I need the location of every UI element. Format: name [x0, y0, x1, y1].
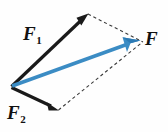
label-force-one: F1: [23, 24, 42, 46]
label-resultant-force: F: [145, 29, 158, 48]
vector-diagram-figure: F1 F2 F: [0, 0, 168, 132]
label-force-one-subscript: 1: [36, 34, 42, 46]
label-force-one-base: F: [23, 23, 36, 44]
label-force-two-base: F: [7, 102, 20, 123]
vector-resultant-shaft: [12, 44, 128, 86]
label-force-two: F2: [7, 103, 26, 125]
label-force-two-subscript: 2: [20, 113, 26, 125]
label-resultant-force-base: F: [145, 28, 158, 49]
vector-f2-arrowhead: [47, 102, 59, 110]
dashed-line-from-f1-tip: [88, 14, 143, 42]
